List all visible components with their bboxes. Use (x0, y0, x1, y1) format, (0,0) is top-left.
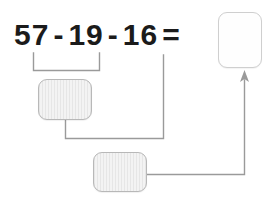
answer-slot[interactable] (218, 12, 262, 68)
operator-minus-2: - (104, 18, 123, 52)
operand-1: 57 (14, 18, 49, 52)
worksheet-canvas: 57-19-16= (0, 0, 279, 200)
operand-2: 19 (68, 18, 103, 52)
equation-expression: 57-19-16= (14, 18, 185, 52)
arrow-head-icon (240, 70, 249, 82)
result-arrow-shaft (147, 80, 245, 175)
operator-equals: = (158, 18, 185, 52)
operand-3: 16 (123, 18, 158, 52)
operator-minus-1: - (49, 18, 68, 52)
work-slot-step2[interactable] (93, 152, 147, 192)
work-slot-step1[interactable] (38, 79, 92, 120)
grouping-bracket-icon (34, 53, 100, 71)
